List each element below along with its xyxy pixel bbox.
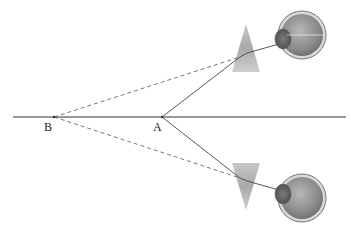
virtual-ray-top <box>54 57 240 117</box>
top-prism <box>232 24 260 72</box>
bottom-prism <box>232 163 260 210</box>
real-ray-top <box>162 44 279 117</box>
real-ray-bottom <box>162 117 279 190</box>
top-eye <box>275 11 326 59</box>
point-A <box>161 116 163 118</box>
point-B <box>53 116 55 118</box>
label-B: B <box>44 120 52 135</box>
ray-diagram <box>0 0 351 234</box>
label-A: A <box>153 120 162 135</box>
bottom-eye <box>275 174 326 222</box>
virtual-ray-bottom <box>54 117 240 178</box>
